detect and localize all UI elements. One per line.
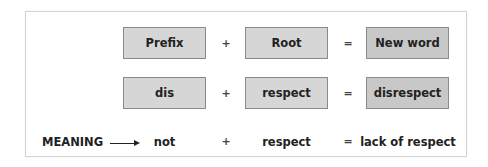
plus-operator: + bbox=[219, 87, 233, 100]
new-word-header-label: New word bbox=[375, 36, 439, 50]
plus-operator: + bbox=[219, 37, 233, 50]
equals-operator: = bbox=[341, 135, 355, 148]
new-word-example-box: disrespect bbox=[366, 77, 449, 109]
meaning-label: MEANING bbox=[42, 135, 103, 149]
root-meaning: respect bbox=[245, 135, 328, 149]
plus-operator: + bbox=[219, 135, 233, 148]
root-example-label: respect bbox=[262, 86, 311, 100]
prefix-meaning: not bbox=[123, 135, 206, 149]
equals-operator: = bbox=[341, 37, 355, 50]
equals-operator: = bbox=[341, 87, 355, 100]
prefix-header-box: Prefix bbox=[123, 27, 206, 59]
root-example-box: respect bbox=[245, 77, 328, 109]
root-header-box: Root bbox=[245, 27, 328, 59]
prefix-header-label: Prefix bbox=[146, 36, 184, 50]
new-word-example-label: disrespect bbox=[374, 86, 442, 100]
prefix-example-label: dis bbox=[155, 86, 174, 100]
prefix-example-box: dis bbox=[123, 77, 206, 109]
root-header-label: Root bbox=[271, 36, 301, 50]
new-word-header-box: New word bbox=[366, 27, 449, 59]
new-word-meaning: lack of respect bbox=[360, 135, 456, 149]
